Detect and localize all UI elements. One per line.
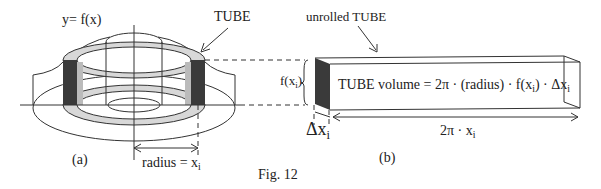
figure-12: y= f(x) TUBE f(xi) (a) radius = xi Fig. … [0,0,601,189]
height-label-text: f(x [280,73,295,88]
tube-label: TUBE [214,10,251,24]
radius-sub: i [198,161,201,172]
left-curve-surface [33,62,63,75]
height-label-close: ) [298,73,302,88]
length-sub: i [473,129,476,140]
volume-formula: TUBE volume = 2π · (radius) · f(xi) · Δx… [338,78,570,94]
unrolled-tube-label: unrolled TUBE [306,10,386,23]
thickness-text: Δx [306,119,327,139]
tube-wall-right [191,60,205,105]
diagram-drawing [0,0,601,189]
formula-part-1: TUBE volume = 2π · (radius) · f(x [338,77,532,92]
panel-a-label: (a) [72,153,88,167]
radius-label: radius = xi [142,156,201,172]
length-label: 2π · xi [440,124,475,140]
thickness-label: Δxi [306,120,330,141]
radius-label-text: radius = [142,155,191,170]
function-label: y= f(x) [62,13,101,27]
length-text: 2π · x [440,123,473,138]
right-curve-surface [205,62,235,75]
formula-part-2: ) · Δx [535,77,567,92]
panel-b-label: (b) [379,151,395,165]
unrolled-tube-end [315,58,330,110]
tube-wall-left [63,60,77,105]
figure-caption: Fig. 12 [258,168,298,182]
height-label: f(xi) [280,74,302,90]
thickness-sub: i [327,128,331,142]
formula-sub-2: i [567,83,570,94]
